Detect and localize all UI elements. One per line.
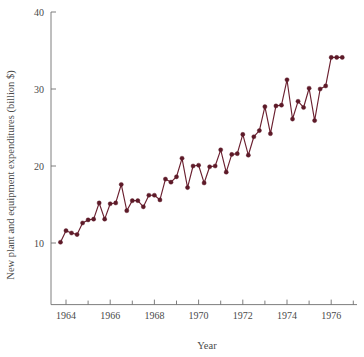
data-point — [152, 193, 156, 197]
data-point — [329, 55, 333, 59]
data-point — [197, 163, 201, 167]
data-point — [86, 218, 90, 222]
data-point — [191, 164, 195, 168]
x-tick-label: 1964 — [56, 310, 76, 321]
data-point — [136, 199, 140, 203]
data-point — [130, 199, 134, 203]
data-point — [224, 170, 228, 174]
data-point — [75, 232, 79, 236]
data-point — [213, 164, 217, 168]
y-tick-label: 30 — [34, 84, 44, 95]
data-point — [125, 209, 129, 213]
data-point — [268, 132, 272, 136]
data-point — [252, 135, 256, 139]
x-tick-label: 1968 — [144, 310, 164, 321]
data-point — [97, 201, 101, 205]
data-point — [169, 180, 173, 184]
data-point — [163, 177, 167, 181]
data-point — [257, 128, 261, 132]
data-point — [180, 156, 184, 160]
data-point — [230, 152, 234, 156]
data-point — [307, 86, 311, 90]
data-point — [285, 78, 289, 82]
data-point — [296, 99, 300, 103]
data-point — [202, 181, 206, 185]
data-point — [114, 201, 118, 205]
x-tick-label: 1966 — [100, 310, 120, 321]
x-tick-label: 1976 — [321, 310, 341, 321]
y-axis-title: New plant and equipment expenditures (bi… — [5, 70, 17, 280]
data-point — [64, 229, 68, 233]
data-point — [313, 118, 317, 122]
data-point — [241, 132, 245, 136]
data-point — [174, 175, 178, 179]
data-point — [108, 202, 112, 206]
y-tick-label: 20 — [34, 161, 44, 172]
data-point — [119, 182, 123, 186]
data-point — [274, 104, 278, 108]
data-point — [246, 153, 250, 157]
x-tick-label: 1974 — [277, 310, 297, 321]
data-point — [219, 148, 223, 152]
data-point — [301, 105, 305, 109]
data-point — [324, 84, 328, 88]
data-point — [235, 152, 239, 156]
data-point — [290, 117, 294, 121]
data-point — [185, 185, 189, 189]
data-point — [263, 105, 267, 109]
data-point — [141, 205, 145, 209]
x-tick-label: 1972 — [233, 310, 253, 321]
chart-container: 10203040 1964196619681970197219741976 Ye… — [0, 0, 364, 357]
data-point — [158, 198, 162, 202]
data-point — [92, 217, 96, 221]
data-point — [103, 217, 107, 221]
data-point — [147, 193, 151, 197]
data-point — [69, 231, 73, 235]
data-point — [318, 87, 322, 91]
line-chart: 10203040 1964196619681970197219741976 Ye… — [0, 0, 364, 357]
data-point — [340, 55, 344, 59]
x-axis-title: Year — [197, 340, 217, 351]
y-tick-label: 10 — [34, 238, 44, 249]
x-tick-label: 1970 — [189, 310, 209, 321]
data-point — [58, 240, 62, 244]
data-point — [279, 103, 283, 107]
y-tick-label: 40 — [34, 7, 44, 18]
data-point — [208, 165, 212, 169]
data-point — [335, 55, 339, 59]
data-point — [80, 221, 84, 225]
